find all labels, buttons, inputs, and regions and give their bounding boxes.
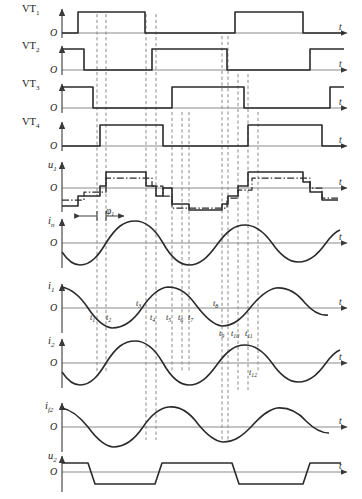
i1-axis-label: t <box>339 297 342 307</box>
u2-label: u2 <box>48 450 57 464</box>
u2-trace <box>62 463 341 484</box>
u2-origin-label: O <box>50 466 57 477</box>
i2-axis-label: t <box>339 352 342 362</box>
channel-vt3: VT3 O t <box>22 78 347 113</box>
vt3-label: VT3 <box>22 78 40 92</box>
phase-angle-marker: φ1 <box>80 206 124 221</box>
time-label-t11: t11 <box>245 329 253 339</box>
vt4-axis-label: t <box>339 135 342 145</box>
if2-label: if2 <box>45 400 54 414</box>
waveform-diagram: VT1 O t VT2 O t VT3 O t <box>0 0 362 499</box>
vt3-trace <box>62 87 344 108</box>
time-label-t4: t4 <box>150 313 155 323</box>
channel-u1: u1 O t <box>48 159 347 212</box>
channel-i1: i1 O t <box>48 280 347 333</box>
in-origin-label: O <box>50 237 57 248</box>
vt2-origin-label: O <box>50 64 57 75</box>
u1-trace-dashdot <box>62 178 338 208</box>
vt4-trace <box>62 125 344 146</box>
time-label-t6: t6 <box>178 313 183 323</box>
vt1-trace <box>62 12 344 33</box>
time-marker-labels: t1 t2 t3 t4 t5 t6 t7 t8 <box>90 299 257 378</box>
in-axis-label: t <box>339 232 342 242</box>
vt2-trace <box>62 49 344 70</box>
vt2-label: VT2 <box>22 40 40 54</box>
time-label-t2: t2 <box>106 313 111 323</box>
channel-in: in O t φ1 <box>48 206 347 268</box>
vt3-origin-label: O <box>50 102 57 113</box>
vt1-label: VT1 <box>22 3 40 17</box>
time-label-t8: t8 <box>213 299 218 309</box>
i2-origin-label: O <box>50 357 57 368</box>
channel-u2: u2 O t <box>48 450 347 492</box>
u1-axis-label: t <box>339 177 342 187</box>
i2-label: i2 <box>48 335 55 349</box>
channel-i2: i2 O t <box>48 335 347 388</box>
channel-vt1: VT1 O t <box>22 3 347 38</box>
i1-origin-label: O <box>50 302 57 313</box>
time-label-t3: t3 <box>136 299 141 309</box>
if2-origin-label: O <box>50 421 57 432</box>
time-label-t7: t7 <box>188 313 194 323</box>
vt4-origin-label: O <box>50 140 57 151</box>
vt3-axis-label: t <box>339 97 342 107</box>
time-label-t5: t5 <box>166 313 171 323</box>
u1-label: u1 <box>48 159 57 173</box>
channel-vt2: VT2 O t <box>22 40 347 75</box>
if2-axis-label: t <box>339 416 342 426</box>
vt1-axis-label: t <box>339 22 342 32</box>
time-label-t9: t9 <box>219 329 224 339</box>
vt1-origin-label: O <box>50 27 57 38</box>
channel-vt4: VT4 O t <box>22 116 347 151</box>
time-label-t12: t12 <box>249 368 257 378</box>
channel-if2: if2 O t <box>45 400 347 452</box>
waveform-canvas: VT1 O t VT2 O t VT3 O t <box>0 0 362 499</box>
i1-label: i1 <box>48 280 54 294</box>
in-label: in <box>48 215 55 229</box>
vt4-label: VT4 <box>22 116 40 130</box>
u2-axis-label: t <box>339 461 342 471</box>
u1-origin-label: O <box>50 182 57 193</box>
vt2-axis-label: t <box>339 59 342 69</box>
phi-label: φ1 <box>106 206 114 217</box>
